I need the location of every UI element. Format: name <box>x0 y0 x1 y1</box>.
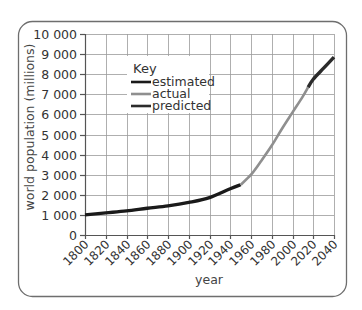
y-tick-label: 2 000 <box>41 188 77 203</box>
y-tick-label: 6 000 <box>41 107 77 122</box>
y-axis-tick-labels: 01 0002 0003 0004 0005 0006 0007 0008 00… <box>33 27 77 243</box>
y-tick-label: 0 <box>69 228 77 243</box>
y-tick-label: 7 000 <box>41 87 77 102</box>
grid-lines <box>85 34 335 235</box>
population-chart: 01 0002 0003 0004 0005 0006 0007 0008 00… <box>0 0 362 310</box>
y-tick-label: 5 000 <box>41 128 77 143</box>
series-line-estimated <box>85 185 241 215</box>
y-tick-label: 3 000 <box>41 168 77 183</box>
y-tick-label: 1 000 <box>41 208 77 223</box>
legend-label-predicted: predicted <box>152 98 211 113</box>
series-line-actual <box>241 87 308 184</box>
y-axis-title: world population (millions) <box>22 44 37 211</box>
x-axis-tick-labels: 1800182018401860188019001920194019601980… <box>60 237 340 268</box>
series-line-predicted <box>308 57 334 87</box>
y-tick-label: 4 000 <box>41 148 77 163</box>
y-tick-label: 10 000 <box>33 27 77 42</box>
y-tick-label: 9 000 <box>41 47 77 62</box>
x-axis-title: year <box>195 272 224 287</box>
legend: Key estimatedactualpredicted <box>127 56 215 113</box>
y-tick-label: 8 000 <box>41 67 77 82</box>
